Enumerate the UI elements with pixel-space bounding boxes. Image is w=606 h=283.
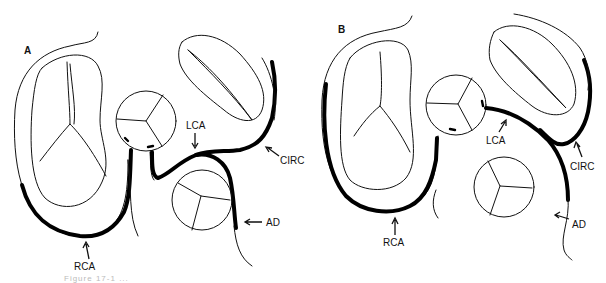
lca-label-b: LCA bbox=[486, 135, 506, 146]
pulmonary-valve-a bbox=[172, 170, 232, 230]
coronary-diagram: A LCA CIRC AD bbox=[0, 0, 606, 283]
lca-label-a: LCA bbox=[186, 120, 206, 131]
panel-a: A LCA CIRC AD bbox=[14, 32, 304, 272]
lca-arrow-b bbox=[499, 120, 506, 132]
pulmonary-cusps-b bbox=[488, 161, 532, 215]
lca-vessel-a bbox=[152, 62, 275, 178]
panel-a-label: A bbox=[24, 45, 31, 56]
mitral-a bbox=[188, 50, 252, 120]
ad-label-a: AD bbox=[266, 217, 280, 228]
circ-vessel-b bbox=[540, 60, 590, 144]
lca-arrow-a bbox=[192, 133, 198, 148]
rca-arrow-b bbox=[392, 218, 398, 235]
aortic-valve-b bbox=[426, 75, 486, 135]
ad-vessel-a bbox=[196, 154, 236, 228]
ad-label-b: AD bbox=[572, 219, 586, 230]
tricuspid-b-1 bbox=[354, 52, 382, 136]
rca-vessel-a bbox=[22, 150, 131, 236]
panel-b-label: B bbox=[338, 24, 345, 35]
rv-cavity-b bbox=[340, 41, 413, 190]
rca-label-a: RCA bbox=[74, 261, 95, 272]
panel-b: B LCA CIRC AD RCA bbox=[322, 14, 595, 260]
tricuspid-a-2 bbox=[70, 124, 106, 176]
tricuspid-b-2 bbox=[380, 106, 410, 152]
ad-tail-b bbox=[563, 198, 572, 260]
lv-cavity-b bbox=[489, 26, 576, 115]
tricuspid-a-1 bbox=[40, 62, 70, 161]
circ-arrow-b bbox=[574, 142, 582, 157]
circ-label-b: CIRC bbox=[570, 161, 594, 172]
circ-label-a: CIRC bbox=[280, 155, 304, 166]
aortic-cusps-b bbox=[427, 78, 472, 130]
rca-tail-b bbox=[433, 190, 438, 218]
rv-cavity-a bbox=[31, 55, 106, 207]
tricuspid-a-3 bbox=[70, 64, 75, 124]
ad-arrow-a bbox=[245, 219, 262, 225]
ad-tail-a bbox=[234, 226, 252, 266]
mitral-b bbox=[500, 40, 566, 108]
rca-arrow-a bbox=[83, 242, 89, 259]
lv-cavity-a bbox=[179, 35, 264, 120]
lv-outer-b bbox=[514, 14, 589, 90]
figure-caption-fragment: Figure 17-1 ... bbox=[64, 274, 129, 283]
rca-label-b: RCA bbox=[383, 237, 404, 248]
circ-arrow-a bbox=[266, 147, 279, 156]
pulmonary-valve-b bbox=[474, 157, 534, 217]
lca-ad-vessel-b bbox=[486, 108, 568, 200]
pulmonary-cusps-a bbox=[178, 183, 230, 230]
